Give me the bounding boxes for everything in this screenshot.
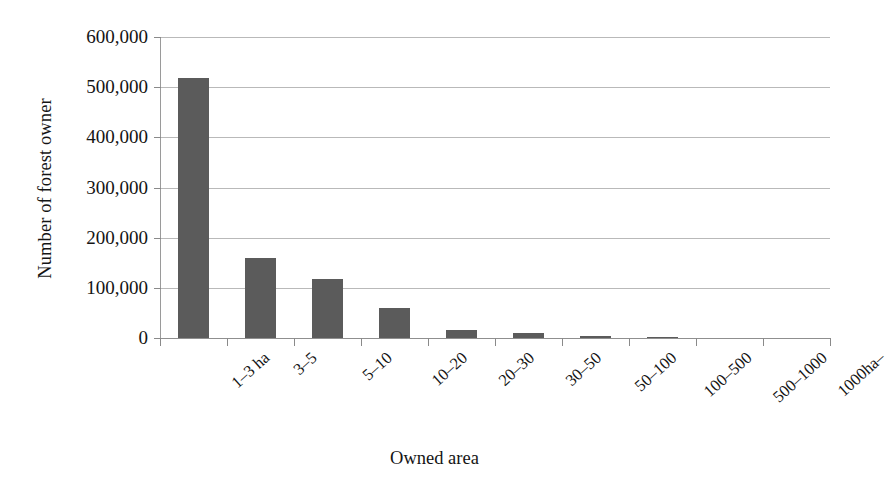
x-tick-label: 100–500 <box>699 348 755 402</box>
y-tick-label: 500,000 <box>22 77 148 96</box>
x-tick-label: 500–1000 <box>768 348 830 407</box>
x-tick-label: 1000ha– <box>833 348 889 401</box>
bar <box>245 258 275 338</box>
x-tick-label: 3–5 <box>289 348 321 379</box>
y-tick-label: 400,000 <box>22 127 148 146</box>
y-tick-mark <box>154 238 161 239</box>
gridline <box>160 188 830 189</box>
x-tick-label: 5–10 <box>358 348 396 385</box>
y-tick-mark <box>154 137 161 138</box>
x-tick-label: 30–50 <box>561 348 605 390</box>
x-tick-label: 1–3 ha <box>227 348 273 393</box>
x-tick-mark <box>830 338 831 346</box>
bar <box>446 330 476 338</box>
y-axis-tick-labels: 0100,000200,000300,000400,000500,000600,… <box>22 0 148 493</box>
gridline <box>160 37 830 38</box>
x-tick-label: 20–30 <box>494 348 538 390</box>
x-tick-label: 50–100 <box>630 348 680 396</box>
y-tick-label: 600,000 <box>22 27 148 46</box>
y-tick-mark <box>154 87 161 88</box>
bar <box>312 279 342 338</box>
gridline <box>160 87 830 88</box>
x-axis-title: Owned area <box>0 448 869 469</box>
bar <box>178 78 208 338</box>
y-tick-mark <box>154 188 161 189</box>
y-tick-label: 0 <box>22 328 148 347</box>
gridline <box>160 137 830 138</box>
y-tick-label: 200,000 <box>22 228 148 247</box>
y-tick-mark <box>154 288 161 289</box>
y-tick-mark <box>154 37 161 38</box>
y-tick-label: 300,000 <box>22 178 148 197</box>
x-axis-tick-labels: 1–3 ha3–55–1010–2020–3030–5050–100100–50… <box>160 338 830 448</box>
bar <box>379 308 409 338</box>
gridline <box>160 238 830 239</box>
plot-area <box>160 37 830 338</box>
x-tick-label: 10–20 <box>427 348 471 390</box>
y-tick-label: 100,000 <box>22 278 148 297</box>
